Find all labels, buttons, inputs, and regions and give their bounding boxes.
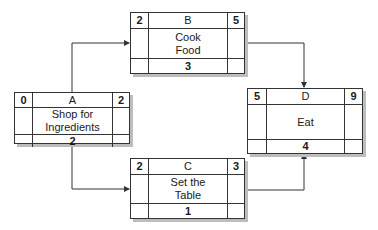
node-a-label: Shop for Ingredients bbox=[32, 107, 112, 134]
node-c-duration: 1 bbox=[148, 203, 227, 218]
node-b-label: Cook Food bbox=[148, 28, 227, 58]
node-d-early-start: 5 bbox=[248, 89, 266, 104]
node-d-duration: 4 bbox=[266, 139, 344, 153]
node-d-early-finish: 9 bbox=[344, 89, 362, 104]
node-a-early-finish: 2 bbox=[112, 93, 129, 107]
node-c-early-finish: 3 bbox=[227, 159, 244, 174]
arrow-a-to-b bbox=[72, 43, 129, 92]
arrow-c-to-d bbox=[245, 154, 304, 190]
node-a-id: A bbox=[32, 93, 112, 107]
node-c-label: Set the Table bbox=[148, 174, 227, 203]
node-b-early-finish: 5 bbox=[227, 13, 244, 28]
node-d-id: D bbox=[266, 89, 344, 104]
node-a-early-start: 0 bbox=[15, 93, 32, 107]
arrow-a-to-c bbox=[72, 143, 129, 189]
node-a-duration: 2 bbox=[32, 134, 112, 147]
arrow-b-to-d bbox=[245, 43, 304, 87]
node-d-eat: 5 D 9 Eat 4 bbox=[247, 88, 363, 154]
node-d-label: Eat bbox=[266, 104, 344, 139]
node-c-set-the-table: 2 C 3 Set the Table 1 bbox=[130, 158, 245, 219]
node-a-shop-for-ingredients: 0 A 2 Shop for Ingredients 2 bbox=[14, 92, 130, 144]
node-b-cook-food: 2 B 5 Cook Food 3 bbox=[130, 12, 245, 74]
node-b-early-start: 2 bbox=[131, 13, 148, 28]
node-c-early-start: 2 bbox=[131, 159, 148, 174]
node-b-id: B bbox=[148, 13, 227, 28]
node-b-duration: 3 bbox=[148, 58, 227, 73]
node-c-id: C bbox=[148, 159, 227, 174]
